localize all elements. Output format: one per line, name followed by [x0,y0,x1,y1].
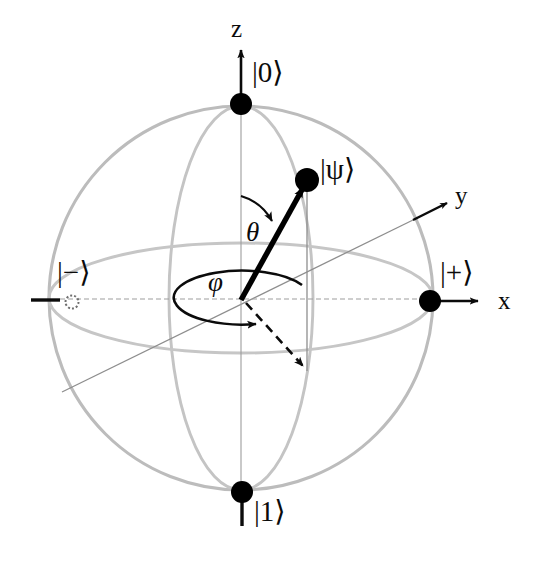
theta-angle-label: θ [246,219,259,246]
phi-angle-ellipse-group [174,271,302,325]
ket-plus-label: |+⟩ [440,258,473,287]
ket-plus-marker-dot [419,290,441,312]
ket-1-marker-dot [231,481,253,503]
ket-0-marker-dot [230,93,252,115]
ket-minus-label: |−⟩ [57,258,90,287]
y-axis-line [413,203,447,220]
axis-label-z: z [231,16,242,41]
phi-angle-label: φ [208,269,223,296]
xy-projection-arrow [246,303,303,366]
ket-0-label: |0⟩ [252,58,284,87]
axis-label-y: y [455,183,468,208]
y-axis-guide-line [62,220,413,392]
psi-state-label: |ψ⟩ [320,155,355,184]
ket-minus-marker-circle [66,296,79,309]
bloch-sphere-figure: z x y |0⟩ |1⟩ |+⟩ |−⟩ |ψ⟩ θ φ [0,0,538,562]
ket-1-label: |1⟩ [254,497,286,526]
axes-group [31,50,478,526]
phi-angle-arc [174,271,302,325]
axis-label-x: x [498,288,511,313]
psi-marker-dot [295,168,319,192]
